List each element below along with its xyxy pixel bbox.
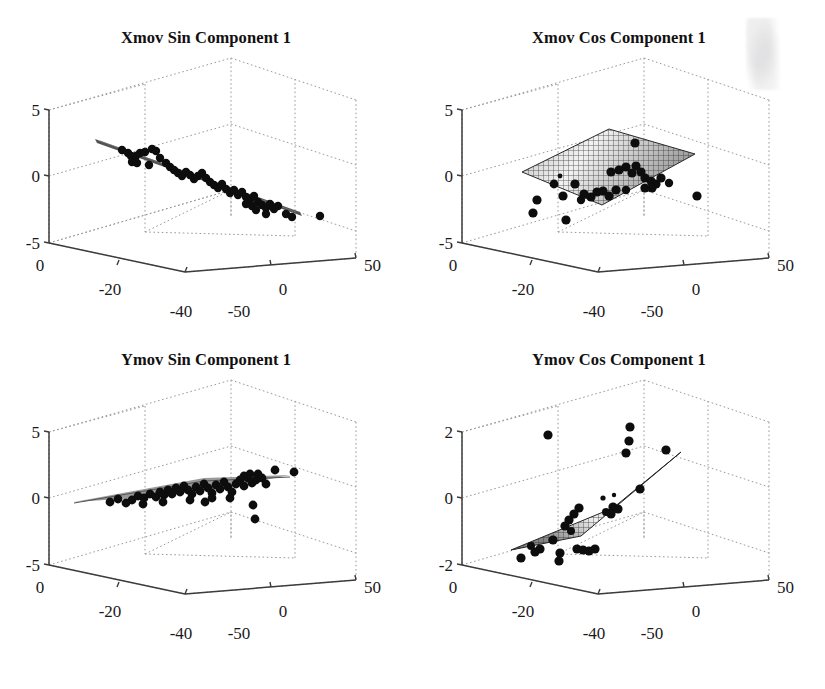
grid-lines: [49, 58, 356, 272]
plot-svg: [413, 0, 825, 344]
x-tick-neg40: -40: [170, 625, 193, 642]
x-tick-neg20: -20: [99, 281, 122, 298]
y-tick-neg50: -50: [641, 303, 664, 320]
y-tick-0: 0: [279, 603, 288, 620]
x-tick-neg20: -20: [99, 603, 122, 620]
y-tick-0: 0: [279, 281, 288, 298]
y-tick-50: 50: [364, 257, 381, 274]
y-tick-50: 50: [364, 579, 381, 596]
y-tick-0: 0: [692, 281, 701, 298]
z-tick-2: 2: [445, 424, 454, 441]
y-tick-neg50: -50: [228, 303, 251, 320]
y-tick-50: 50: [777, 257, 794, 274]
z-tick-5: 5: [445, 102, 454, 119]
z-tick-0: 0: [32, 490, 41, 507]
z-tick-5: 5: [32, 424, 41, 441]
z-tick-0: 0: [445, 490, 454, 507]
figure-canvas: Xmov Sin Component 1: [0, 0, 825, 689]
z-tick-0: 0: [32, 168, 41, 185]
plot-area: 5 0 -5 0 -20 -40 -50 0 50: [0, 0, 412, 344]
axis-lines: [49, 432, 356, 594]
panel-xmov-cos: Xmov Cos Component 1: [413, 0, 825, 344]
axis-ticks: [44, 109, 356, 272]
z-tick-neg5: -5: [26, 235, 40, 252]
x-tick-neg20: -20: [512, 281, 535, 298]
axis-lines: [49, 110, 356, 272]
z-tick-neg2: -2: [439, 557, 453, 574]
x-tick-0: 0: [36, 579, 45, 596]
y-tick-50: 50: [777, 579, 794, 596]
x-tick-0: 0: [449, 579, 458, 596]
x-tick-0: 0: [36, 257, 45, 274]
plot-area: 5 0 -5 0 -20 -40 -50 0 50: [0, 322, 412, 666]
x-tick-neg40: -40: [583, 625, 606, 642]
scatter-points: [106, 466, 299, 524]
axis-lines: [462, 432, 769, 594]
x-tick-neg40: -40: [170, 303, 193, 320]
z-tick-0: 0: [445, 168, 454, 185]
z-tick-5: 5: [32, 102, 41, 119]
y-tick-0: 0: [692, 603, 701, 620]
z-tick-neg5: -5: [26, 557, 40, 574]
y-tick-neg50: -50: [228, 625, 251, 642]
panel-ymov-cos: Ymov Cos Component 1: [413, 322, 825, 666]
z-tick-neg5: -5: [439, 235, 453, 252]
plot-svg: [413, 322, 825, 666]
plot-svg: [0, 322, 412, 666]
x-tick-neg40: -40: [583, 303, 606, 320]
x-tick-0: 0: [449, 257, 458, 274]
y-tick-neg50: -50: [641, 625, 664, 642]
x-tick-neg20: -20: [512, 603, 535, 620]
panel-xmov-sin: Xmov Sin Component 1: [0, 0, 412, 344]
plot-area: 2 0 -2 0 -20 -40 -50 0 50: [413, 322, 825, 666]
plot-svg: [0, 0, 412, 344]
axis-ticks: [44, 431, 356, 594]
panel-ymov-sin: Ymov Sin Component 1: [0, 322, 412, 666]
plot-area: 5 0 -5 0 -20 -40 -50 0 50: [413, 0, 825, 344]
grid-lines: [462, 380, 769, 594]
